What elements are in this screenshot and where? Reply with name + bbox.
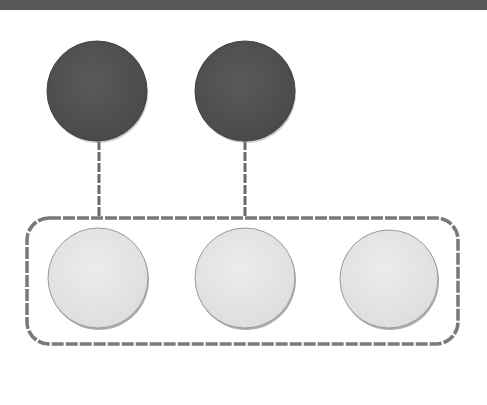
parent-node-1 — [47, 41, 148, 143]
child-node-3 — [340, 230, 439, 330]
diagram-canvas — [0, 0, 487, 405]
parent-node-2 — [195, 41, 296, 143]
child-node-2 — [195, 228, 296, 330]
child-node-1 — [48, 228, 149, 330]
